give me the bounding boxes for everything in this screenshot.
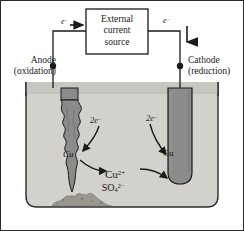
sulfate-ion-charge: 2− — [118, 182, 125, 189]
sulfate-ion-symbol: SO — [102, 182, 115, 193]
cathode-electrode — [168, 88, 192, 184]
external-current-source-label: External current source — [88, 11, 146, 51]
two-electron-symbol-right: 2e — [146, 113, 154, 123]
electron-label-right: e− — [163, 17, 170, 26]
cathode-process: (reduction) — [188, 66, 230, 77]
source-line-1: External — [101, 14, 133, 26]
anode-label: Anode (oxidation) — [14, 55, 56, 76]
cathode-terminal-dot — [177, 63, 183, 69]
copper-ion-label: Cu2+ — [105, 168, 125, 180]
copper-ion-symbol: Cu — [105, 168, 118, 180]
cathode-material-label: Cu — [163, 148, 174, 158]
two-electron-label-left: 2e− — [90, 116, 102, 126]
source-line-2: current — [104, 25, 131, 37]
two-electron-charge-left: − — [98, 116, 102, 122]
copper-ion-charge: 2+ — [118, 169, 125, 176]
two-electron-symbol-left: 2e — [90, 115, 98, 125]
electrolytic-cell-figure: External current source Anode (oxidation… — [0, 0, 244, 231]
two-electron-charge-right: − — [154, 114, 158, 120]
source-line-3: source — [105, 37, 130, 49]
electron-label-left: e− — [61, 18, 68, 27]
anode-process: (oxidation) — [14, 66, 56, 77]
electron-charge-left: − — [65, 18, 68, 23]
anode-material-label: Cu — [63, 149, 74, 159]
cathode-label: Cathode (reduction) — [188, 55, 230, 76]
electron-charge-right: − — [167, 17, 170, 22]
anode-name: Anode — [14, 55, 56, 66]
two-electron-label-right: 2e− — [146, 114, 158, 124]
sulfate-ion-label: SO42− — [102, 182, 124, 194]
cathode-name: Cathode — [188, 55, 230, 66]
